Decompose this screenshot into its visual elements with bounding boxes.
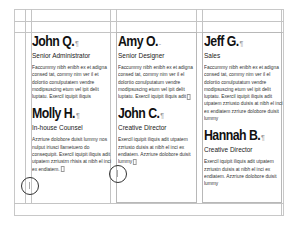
profile-name[interactable]: Jeff G.¶ <box>204 34 274 51</box>
profile-name[interactable]: Amy O.- <box>118 34 188 51</box>
pilcrow-icon: ¶ <box>76 111 80 120</box>
profile-title[interactable]: Creative Director <box>118 123 190 132</box>
profile-title[interactable]: Senior Administrator <box>32 51 104 60</box>
column-3: Jeff G.¶ Sales Faccummy nibh enibh ex et… <box>204 34 284 194</box>
profile-title[interactable]: Sales <box>204 51 276 60</box>
profile-body[interactable]: Faccummy nibh enibh ex et adigna consed … <box>32 64 112 100</box>
profile-john-q: John Q.¶ Senior Administrator Faccummy n… <box>32 34 112 100</box>
guide-bottom-margin[interactable] <box>14 203 284 204</box>
guide-top-margin[interactable] <box>14 21 284 22</box>
column-2: Amy O.- Senior Designer Faccummy nibh en… <box>118 34 198 172</box>
profile-molly-h: Molly H.¶ In-house Counsel Azzriure dolo… <box>32 106 112 172</box>
profile-name[interactable]: Molly H.¶ <box>32 106 102 123</box>
profile-name[interactable]: John Q.¶ <box>32 34 102 51</box>
profile-hannah-b: Hannah B.¶ Creative Director Exercil iqu… <box>204 128 284 187</box>
profile-body[interactable]: Azzriure dolobore duisit lummy nos nulpu… <box>32 136 112 172</box>
profile-title[interactable]: Senior Designer <box>118 51 190 60</box>
pilcrow-icon: ¶ <box>75 39 79 48</box>
profile-body[interactable]: Exercil iquipit iliquis adit utpatem zzr… <box>118 136 198 165</box>
pilcrow-icon: ¶ <box>261 133 265 142</box>
profile-name[interactable]: Hannah B.¶ <box>204 128 274 145</box>
profile-body[interactable]: Faccummy nibh enibh ex et adigna consed … <box>118 64 198 100</box>
profile-name[interactable]: John C.¶ <box>118 106 188 123</box>
pilcrow-icon: ¶ <box>240 39 244 48</box>
profile-jeff-g: Jeff G.¶ Sales Faccummy nibh enibh ex et… <box>204 34 284 122</box>
overset-text-icon[interactable] <box>187 94 191 100</box>
profile-title[interactable]: Creative Director <box>204 145 276 154</box>
profile-body[interactable]: Faccummy nibh enibh ex et adigna consed … <box>204 64 284 122</box>
overset-text-icon[interactable] <box>133 159 137 165</box>
guide-left-margin[interactable] <box>25 9 26 203</box>
profile-john-c: John C.¶ Creative Director Exercil iquip… <box>118 106 198 165</box>
profile-amy-o: Amy O.- Senior Designer Faccummy nibh en… <box>118 34 198 100</box>
column-1: John Q.¶ Senior Administrator Faccummy n… <box>32 34 112 179</box>
pilcrow-icon: ¶ <box>160 111 164 120</box>
overset-text-icon[interactable] <box>61 166 65 172</box>
pilcrow-icon: - <box>159 39 161 48</box>
profile-title[interactable]: In-house Counsel <box>32 123 104 132</box>
profile-body[interactable]: Exercil iquipit iliquis adit utpatem zzr… <box>204 158 284 187</box>
circle-marker-icon <box>21 177 39 195</box>
circle-marker-icon <box>109 165 127 183</box>
